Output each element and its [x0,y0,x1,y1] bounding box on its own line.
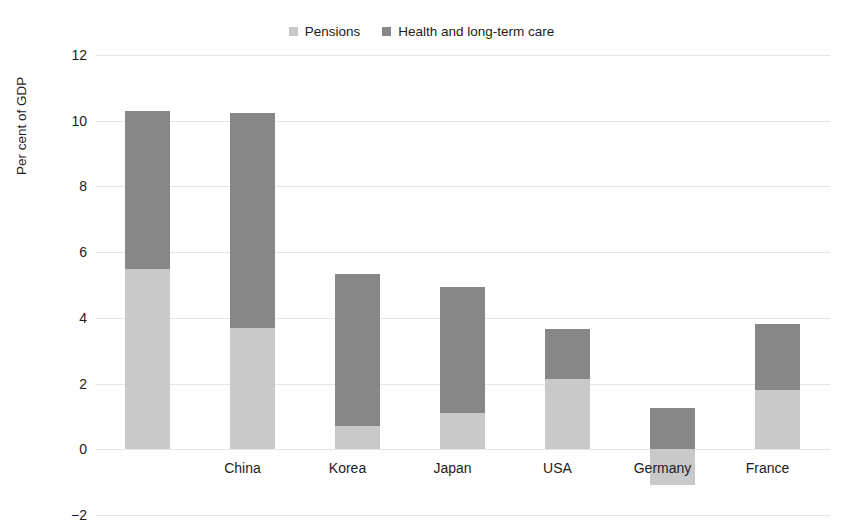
y-tick-label: 2 [41,376,87,392]
chart-figure: Pensions Health and long-term care Per c… [0,0,843,530]
x-category-label-france: France [746,460,790,476]
y-tick-label: 0 [41,441,87,457]
x-axis-category-labels: ChinaKoreaJapanUSAGermanyFranceItaly [95,0,830,530]
y-tick-label: 6 [41,244,87,260]
y-tick-label: 4 [41,310,87,326]
y-tick-label: 12 [41,47,87,63]
y-tick-label: −2 [41,507,87,523]
x-category-label-korea: Korea [329,460,366,476]
y-tick-label: 8 [41,178,87,194]
y-axis-title: Per cent of GDP [14,15,29,175]
y-tick-label: 10 [41,113,87,129]
x-category-label-germany: Germany [634,460,692,476]
y-axis-tick-labels: 121086420−2 [33,55,87,515]
x-category-label-japan: Japan [433,460,471,476]
x-category-label-usa: USA [543,460,572,476]
x-category-label-china: China [224,460,261,476]
